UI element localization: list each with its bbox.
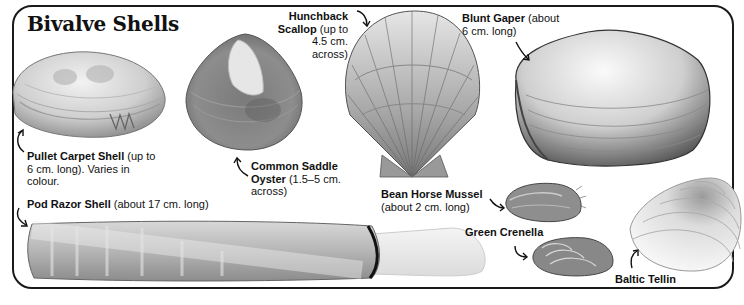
pullet-carpet-shell-illustration: [5, 42, 170, 142]
baltic-tellin-arrow-icon: [628, 248, 642, 270]
bean-horse-mussel-illustration: [502, 178, 587, 226]
common-saddle-oyster-label: Common Saddle Oyster (1.5–5 cm. across): [251, 160, 341, 198]
blunt-gaper-arrow-icon: [513, 40, 531, 62]
crenella-arrow-icon: [512, 244, 530, 262]
razor-shell-arrow-icon: [14, 206, 30, 228]
shell-name: Common Saddle: [251, 160, 338, 172]
scallop-arrow-icon: [355, 8, 371, 28]
baltic-tellin-label: Baltic Tellin: [615, 273, 676, 286]
page-title: Bivalve Shells: [27, 12, 179, 36]
shell-name: Blunt Gaper: [462, 12, 525, 24]
shell-name: Scallop: [278, 23, 317, 35]
shell-name: Pod Razor Shell: [27, 198, 111, 210]
green-crenella-illustration: [530, 234, 618, 280]
bean-mussel-arrow-icon: [488, 197, 506, 213]
pullet-arrow-icon: [12, 128, 28, 154]
shell-name: Oyster: [251, 173, 286, 185]
baltic-tellin-illustration: [625, 174, 743, 274]
green-crenella-label: Green Crenella: [465, 226, 543, 239]
saddle-oyster-arrow-icon: [232, 156, 250, 178]
hunchback-scallop-label: Hunchback Scallop (up to 4.5 cm. across): [270, 10, 348, 60]
blunt-gaper-label: Blunt Gaper (about 6 cm. long): [462, 12, 559, 37]
pod-razor-shell-illustration: [22, 216, 492, 286]
bean-horse-mussel-label: Bean Horse Mussel (about 2 cm. long): [381, 188, 482, 213]
shell-name: Hunchback: [289, 10, 348, 22]
shell-name: Pullet Carpet Shell: [27, 150, 124, 162]
shell-name: Green Crenella: [465, 226, 543, 238]
pullet-carpet-shell-label: Pullet Carpet Shell (up to 6 cm. long). …: [27, 150, 155, 188]
blunt-gaper-illustration: [508, 20, 718, 170]
shell-name: Baltic Tellin: [615, 273, 676, 285]
shell-name: Bean Horse Mussel: [381, 188, 482, 200]
pod-razor-shell-label: Pod Razor Shell (about 17 cm. long): [27, 198, 209, 211]
